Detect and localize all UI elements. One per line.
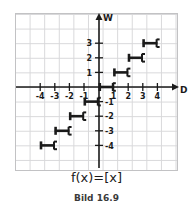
x-tick-label-3: 3	[140, 92, 146, 101]
x-tick-label-neg2: -2	[65, 92, 74, 101]
step-segment-neg2	[69, 112, 86, 120]
step-segment-0	[99, 83, 116, 91]
step-segment-2	[128, 54, 145, 62]
step-segment-1	[114, 68, 131, 76]
x-tick-label-neg3: -3	[50, 92, 59, 101]
y-tick-label-3: 3	[86, 39, 92, 48]
step-segment-neg3	[55, 127, 72, 135]
y-tick-label-neg3: -3	[105, 127, 114, 136]
step-segment-3	[143, 39, 160, 47]
step-segment-neg4	[40, 141, 57, 149]
x-axis-label: D	[180, 85, 187, 95]
y-tick-label-neg1: -1	[105, 98, 114, 107]
y-tick-label-neg4: -4	[105, 142, 114, 151]
function-formula: f(x)=[x]	[0, 170, 193, 185]
x-tick-label-neg4: -4	[36, 92, 45, 101]
y-tick-label-neg2: -2	[105, 112, 114, 121]
x-tick-label-4: 4	[155, 92, 161, 101]
figure-container: W D -4 -3 -2 -1 1 2 3 4	[0, 0, 193, 214]
y-tick-label-2: 2	[86, 54, 92, 63]
figure-caption: Bild 16.9	[0, 193, 193, 203]
x-tick-label-2: 2	[125, 92, 131, 101]
y-axis-label: W	[103, 13, 113, 23]
y-tick-label-1: 1	[86, 69, 92, 78]
